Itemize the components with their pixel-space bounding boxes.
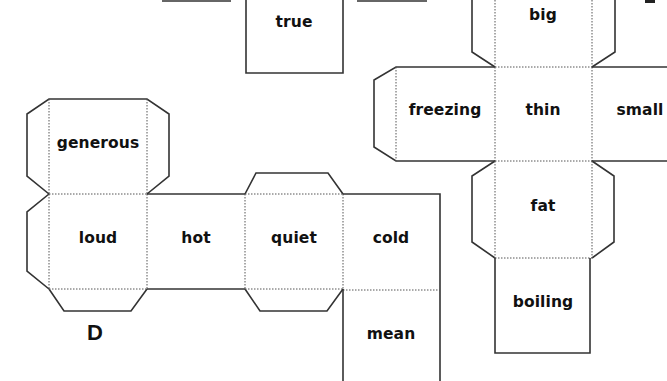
face-label-generous: generous: [57, 134, 140, 152]
face-label-fat: fat: [531, 197, 556, 215]
face-label-small: small: [617, 101, 664, 119]
face-label-freezing: freezing: [409, 101, 482, 119]
face-label-hot: hot: [181, 229, 210, 247]
top-partial-net: [162, 0, 427, 73]
face-label-big: big: [529, 6, 557, 24]
face-label-loud: loud: [79, 229, 118, 247]
face-label-boiling: boiling: [513, 293, 574, 311]
net-letter-d: D: [87, 320, 103, 346]
face-label-mean: mean: [367, 325, 416, 343]
face-label-thin: thin: [525, 101, 560, 119]
face-label-cold: cold: [373, 229, 410, 247]
face-label-true: true: [275, 13, 312, 31]
face-label-quiet: quiet: [271, 229, 317, 247]
clipped-label-fragment: [645, 0, 655, 3]
